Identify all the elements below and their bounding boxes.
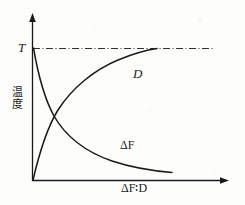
x-axis-arrowhead: [220, 177, 229, 184]
x-axis-title: ΔF∶D: [121, 182, 147, 194]
t-level-label: T: [18, 41, 25, 54]
chart-canvas: [0, 0, 245, 205]
y-axis-title: 温度: [11, 86, 22, 110]
curve-deltaF: [34, 48, 173, 173]
curve-deltaF-label: ΔF: [120, 139, 134, 151]
y-axis: [29, 13, 36, 181]
curve-D-label: D: [133, 67, 142, 80]
y-axis-arrowhead: [29, 13, 36, 22]
temperature-vs-deltaF-D-figure: T 温度 ΔF∶D D ΔF: [0, 0, 245, 205]
